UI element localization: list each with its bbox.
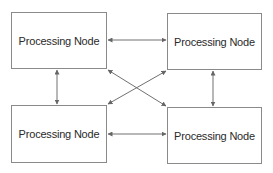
node-label: Processing Node — [19, 35, 100, 47]
network-diagram: Processing Node Processing Node Processi… — [0, 0, 273, 173]
processing-node-top-right: Processing Node — [167, 13, 262, 70]
processing-node-top-left: Processing Node — [11, 12, 107, 69]
node-label: Processing Node — [19, 128, 100, 140]
processing-node-bottom-right: Processing Node — [167, 107, 262, 164]
node-label: Processing Node — [174, 130, 255, 142]
arrow-top-right-bottom-left — [108, 71, 166, 104]
processing-node-bottom-left: Processing Node — [11, 105, 107, 163]
node-label: Processing Node — [174, 36, 255, 48]
arrow-top-left-bottom-right — [108, 70, 166, 106]
